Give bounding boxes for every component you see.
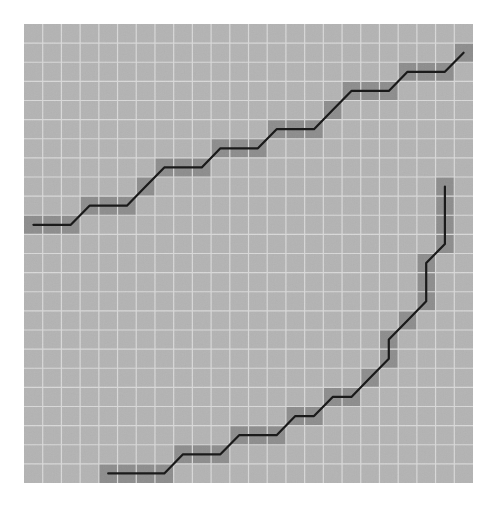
rasterized-line-diagram <box>0 0 500 511</box>
pixel-grid <box>0 0 500 511</box>
grid-texture <box>24 24 473 483</box>
